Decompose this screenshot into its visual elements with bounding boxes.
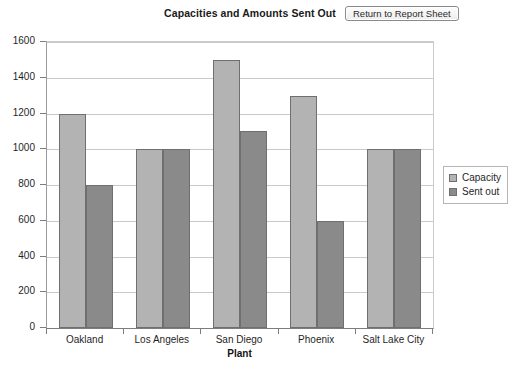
bar-sent-out <box>394 149 421 328</box>
y-axis-tick-label: 200 <box>18 286 35 296</box>
y-axis-tick-label: 400 <box>18 251 35 261</box>
bar-capacity <box>367 149 394 328</box>
y-axis-tick-label: 1600 <box>13 36 35 46</box>
x-axis-tick-label: Los Angeles <box>135 335 190 345</box>
chart-title: Capacities and Amounts Sent Out <box>150 7 350 19</box>
bar-capacity <box>213 60 240 328</box>
y-axis-tick-label: 600 <box>18 215 35 225</box>
legend-item: Sent out <box>449 185 501 199</box>
legend-label: Capacity <box>462 173 501 183</box>
plot-area <box>46 41 434 329</box>
y-axis-tick-label: 800 <box>18 179 35 189</box>
x-axis-tick-label: Oakland <box>66 335 103 345</box>
y-axis-tick-label: 0 <box>29 322 35 332</box>
bar-capacity <box>136 149 163 328</box>
return-to-report-sheet-button[interactable]: Return to Report Sheet <box>345 6 459 21</box>
chart-legend: CapacitySent out <box>443 166 508 204</box>
x-axis-title: Plant <box>46 348 433 359</box>
legend-label: Sent out <box>462 187 499 197</box>
y-axis-tick-label: 1200 <box>13 108 35 118</box>
x-axis-tick-mark <box>278 328 279 334</box>
legend-swatch-capacity <box>449 174 457 182</box>
y-axis-tick-label: 1400 <box>13 72 35 82</box>
bar-sent-out <box>317 221 344 328</box>
x-axis-tick-label: Phoenix <box>298 335 334 345</box>
bar-capacity <box>290 96 317 328</box>
x-axis-tick-mark <box>200 328 201 334</box>
x-axis-tick-label: Salt Lake City <box>363 335 425 345</box>
bar-sent-out <box>86 185 113 328</box>
x-axis-tick-mark <box>355 328 356 334</box>
legend-item: Capacity <box>449 171 501 185</box>
y-axis-tick-label: 1000 <box>13 143 35 153</box>
x-axis-tick-label: San Diego <box>216 335 263 345</box>
bar-sent-out <box>163 149 190 328</box>
x-axis: OaklandLos AngelesSan DiegoPhoenixSalt L… <box>46 328 433 348</box>
x-axis-tick-mark <box>123 328 124 334</box>
chart-container: Capacities and Amounts Sent Out Return t… <box>0 0 531 367</box>
x-axis-tick-mark <box>432 328 433 334</box>
legend-swatch-sent-out <box>449 188 457 196</box>
bar-sent-out <box>240 131 267 328</box>
x-axis-tick-mark <box>46 328 47 334</box>
y-axis: 02004006008001000120014001600 <box>0 41 46 328</box>
bars-layer <box>47 42 433 328</box>
bar-capacity <box>59 114 86 329</box>
